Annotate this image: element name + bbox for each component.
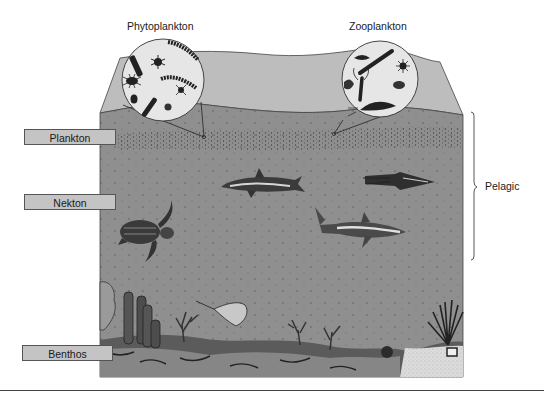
marine-zones-diagram: Phytoplankton Zooplankton Plankton Nekto…: [0, 0, 544, 398]
pelagic-label: Pelagic: [485, 180, 519, 192]
pelagic-bracket: [471, 112, 477, 260]
phytoplankton-title: Phytoplankton: [127, 20, 194, 32]
nekton-label: Nekton: [24, 194, 116, 210]
benthos-label: Benthos: [22, 345, 113, 361]
bottom-divider: [0, 390, 544, 391]
plankton-label: Plankton: [24, 129, 116, 145]
zooplankton-title: Zooplankton: [349, 20, 407, 32]
